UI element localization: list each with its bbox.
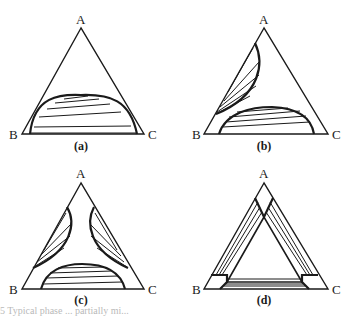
tie-line [226,116,306,122]
triangle-c [22,183,144,289]
band-boundary-right [302,275,318,289]
binodal-curve-b-ab [216,43,259,114]
tie-line [91,236,124,262]
tie-line [47,104,110,109]
vertex-label-A: A [259,166,269,181]
vertex-label-B: B [192,127,201,142]
tie-line [34,126,131,127]
panel-b [204,28,328,134]
triangle-b [204,28,328,134]
tie-line [64,96,88,99]
panel-a [22,28,144,134]
vertex-label-B: B [9,282,18,297]
panel-caption-a: (a) [74,139,88,153]
tie-line [220,75,259,107]
vertex-label-A: A [76,166,86,181]
tie-line [34,248,64,267]
tie-line [97,248,127,267]
vertex-label-C: C [148,127,157,142]
panel-d [204,183,328,289]
vertex-label-B: B [9,127,18,142]
panel-c [22,183,144,289]
tie-line [37,236,70,262]
vertex-label-B: B [192,282,201,297]
band-boundary-left [211,275,227,289]
tie-line [43,282,122,284]
tie-line [217,86,256,112]
tie-line [268,207,310,275]
tie-line [46,276,118,278]
tie-line [50,271,112,273]
vertex-label-C: C [332,127,341,142]
panel-caption-b: (b) [257,139,272,153]
panel-caption-d: (d) [257,293,272,307]
tie-line [55,99,99,103]
tie-line [39,112,121,117]
vertex-label-C: C [332,282,341,297]
band-boundary-top [255,198,273,217]
tie-line [228,48,253,92]
figure-caption-partial: 5 Typical phase ... partially mi... [0,305,129,316]
tie-line [223,122,310,127]
vertex-label-C: C [148,282,157,297]
tie-line [219,207,260,275]
vertex-label-A: A [259,12,269,27]
triangle-a [22,28,144,134]
vertex-label-A: A [76,12,86,27]
